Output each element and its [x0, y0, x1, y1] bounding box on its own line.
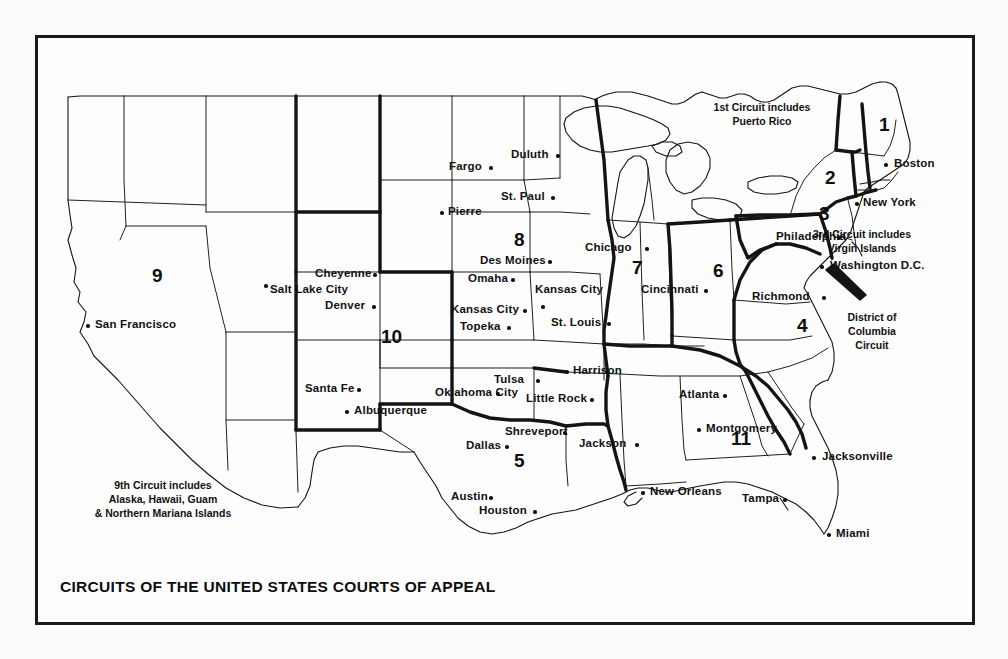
city-marker-dot	[372, 305, 376, 309]
city-marker-dot	[820, 265, 824, 269]
city-marker-dot	[264, 284, 268, 288]
city-marker-dot	[812, 456, 816, 460]
city-marker-dot	[86, 324, 90, 328]
city-label: Atlanta	[679, 388, 719, 401]
city-marker-dot	[884, 163, 888, 167]
note-dc-line: Columbia	[847, 324, 896, 338]
note-1st-line: Puerto Rico	[714, 114, 811, 128]
note-dc-line: District of	[847, 310, 896, 324]
note-3rd: 3rd Circuit includesVirgin Islands	[813, 227, 911, 255]
map-page: BostonNew YorkPhiladelphiaWashington D.C…	[0, 0, 1008, 659]
city-marker-dot	[536, 379, 540, 383]
city-marker-dot	[827, 533, 831, 537]
note-1st-line: 1st Circuit includes	[714, 100, 811, 114]
city-label: Cincinnati	[641, 283, 699, 296]
city-label: St. Louis	[551, 316, 601, 329]
city-marker-dot	[551, 196, 555, 200]
city-marker-dot	[645, 247, 649, 251]
city-label: Cheyenne	[315, 267, 372, 280]
city-marker-dot	[507, 326, 511, 330]
city-marker-dot	[556, 154, 560, 158]
circuit-number-3: 3	[819, 203, 830, 225]
city-label: Harrison	[573, 364, 622, 377]
city-marker-dot	[565, 370, 569, 374]
city-marker-dot	[855, 202, 859, 206]
city-marker-dot	[505, 445, 509, 449]
note-dc-line: Circuit	[847, 338, 896, 352]
city-marker-dot	[563, 431, 567, 435]
city-marker-dot	[373, 273, 377, 277]
note-3rd-line: Virgin Islands	[813, 241, 911, 255]
city-label: Austin	[451, 490, 488, 503]
map-title: CIRCUITS OF THE UNITED STATES COURTS OF …	[60, 578, 495, 596]
city-label: Albuquerque	[354, 404, 427, 417]
note-dc: District ofColumbiaCircuit	[847, 310, 896, 353]
city-marker-dot	[440, 211, 444, 215]
city-marker-dot	[822, 296, 826, 300]
city-label: Dallas	[466, 439, 501, 452]
city-marker-dot	[704, 289, 708, 293]
city-label: St. Paul	[501, 190, 545, 203]
city-label: Fargo	[449, 160, 482, 173]
city-marker-dot	[641, 491, 645, 495]
city-marker-dot	[489, 496, 493, 500]
city-label: Washington D.C.	[830, 259, 925, 272]
note-9th-line: & Northern Mariana Islands	[95, 506, 232, 520]
city-marker-dot	[523, 309, 527, 313]
circuit-number-10: 10	[381, 326, 402, 348]
city-label: Topeka	[460, 320, 501, 333]
city-label: Miami	[836, 527, 870, 540]
note-9th-line: Alaska, Hawaii, Guam	[95, 492, 232, 506]
city-marker-dot	[511, 278, 515, 282]
city-marker-dot	[607, 322, 611, 326]
city-label: Richmond	[752, 290, 810, 303]
city-label: Tampa	[742, 492, 779, 505]
circuit-number-7: 7	[632, 257, 643, 279]
city-label: New Orleans	[650, 485, 722, 498]
city-label: Chicago	[585, 241, 632, 254]
city-label: Jackson	[579, 437, 626, 450]
city-marker-dot	[489, 166, 493, 170]
city-marker-dot	[697, 428, 701, 432]
circuit-number-5: 5	[514, 450, 525, 472]
note-1st: 1st Circuit includesPuerto Rico	[714, 100, 811, 128]
city-marker-dot	[541, 305, 545, 309]
city-marker-dot	[635, 443, 639, 447]
circuit-number-4: 4	[797, 315, 808, 337]
circuit-number-8: 8	[514, 229, 525, 251]
city-marker-dot	[345, 410, 349, 414]
circuit-number-2: 2	[825, 167, 836, 189]
city-label: Jacksonville	[822, 450, 893, 463]
circuit-number-11: 11	[731, 428, 751, 450]
city-label: San Francisco	[95, 318, 176, 331]
city-label: Houston	[479, 504, 527, 517]
city-label: Tulsa	[494, 373, 524, 386]
city-marker-dot	[723, 394, 727, 398]
city-marker-dot	[548, 260, 552, 264]
city-label: Des Moines	[480, 254, 546, 267]
city-label: New York	[863, 196, 916, 209]
city-label: Kansas City	[451, 303, 519, 316]
city-label: Pierre	[448, 205, 482, 218]
city-label: Little Rock	[526, 392, 587, 405]
city-label: Duluth	[511, 148, 549, 161]
circuit-number-6: 6	[713, 260, 724, 282]
city-marker-dot	[783, 498, 787, 502]
circuit-number-1: 1	[879, 114, 890, 136]
circuit-number-9: 9	[152, 265, 163, 287]
city-label: Oklahoma City	[435, 386, 518, 399]
city-label: Salt Lake City	[270, 283, 348, 296]
note-9th-line: 9th Circuit includes	[95, 478, 232, 492]
city-label: Omaha	[468, 272, 508, 285]
note-9th: 9th Circuit includesAlaska, Hawaii, Guam…	[95, 478, 232, 521]
city-label: Shreveport	[505, 425, 568, 438]
city-marker-dot	[533, 510, 537, 514]
city-marker-dot	[496, 392, 500, 396]
city-label: Santa Fe	[305, 382, 355, 395]
city-marker-dot	[590, 398, 594, 402]
city-label: Boston	[894, 157, 935, 170]
note-3rd-line: 3rd Circuit includes	[813, 227, 911, 241]
city-marker-dot	[357, 388, 361, 392]
city-label: Kansas City	[535, 283, 603, 296]
city-label: Denver	[325, 299, 365, 312]
